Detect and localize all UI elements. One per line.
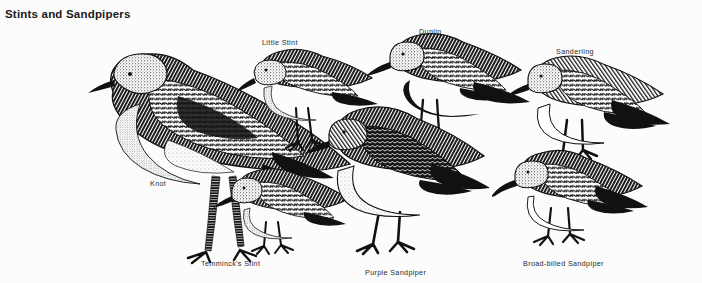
bird-label-little-stint: Little Stint (262, 38, 298, 47)
bird-label-dunlin: Dunlin (419, 27, 441, 36)
page-title: Stints and Sandpipers (5, 8, 131, 20)
bird-illustration-purple-sandpiper (304, 107, 490, 254)
bird-illustration-dunlin (366, 34, 530, 144)
illustration-plate: Stints and Sandpipers (0, 0, 702, 283)
bird-label-temmincks-stint: Temminck's Stint (201, 259, 260, 268)
bird-illustration-knot (88, 54, 350, 263)
bird-illustration-broad-billed-sandpiper (492, 150, 648, 245)
bird-illustration-little-stint (236, 49, 378, 151)
bird-label-sanderling: Sanderling (556, 47, 594, 56)
bird-label-purple-sandpiper: Purple Sandpiper (365, 268, 426, 277)
bird-illustration-temmincks-stint (213, 169, 348, 254)
bird-illustration-sanderling (506, 56, 670, 161)
bird-label-knot: Knot (150, 179, 166, 188)
bird-label-broad-billed-sandpiper: Broad-billed Sandpiper (523, 259, 604, 268)
bird-artwork-layer (0, 0, 702, 283)
